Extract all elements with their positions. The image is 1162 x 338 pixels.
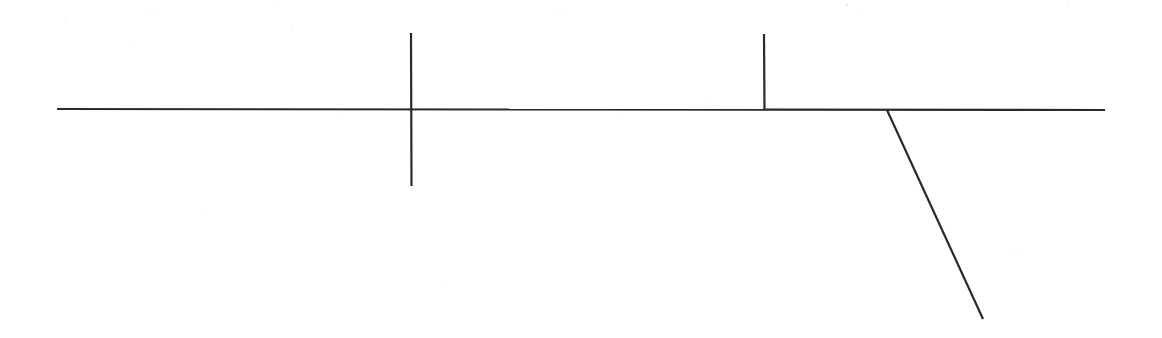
- tick-cross-left-stroke: [411, 33, 412, 186]
- baseline-stroke: [57, 109, 1105, 110]
- paper-background: [0, 0, 1162, 338]
- tick-upper-right-stroke: [764, 34, 765, 110]
- line-diagram: [0, 0, 1162, 338]
- diagram-canvas: [0, 0, 1162, 338]
